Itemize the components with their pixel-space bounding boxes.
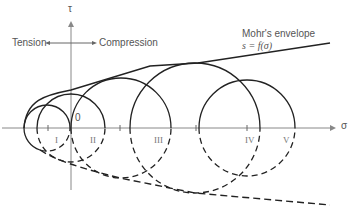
compression-arrow-icon bbox=[92, 41, 97, 45]
origin-label: 0 bbox=[75, 112, 81, 123]
mohr-envelope bbox=[24, 43, 330, 128]
tau-arrow-icon bbox=[68, 21, 74, 27]
circle-label-1: I bbox=[55, 135, 58, 145]
compression-label: Compression bbox=[99, 37, 158, 48]
tau-label: τ bbox=[68, 3, 72, 14]
circle-label-5: V bbox=[283, 135, 290, 145]
sigma-arrow-icon bbox=[330, 125, 336, 131]
tension-label: Tension bbox=[12, 37, 46, 48]
circle-label-2: II bbox=[90, 135, 96, 145]
sigma-label: σ bbox=[341, 120, 347, 131]
circle-label-4: IV bbox=[245, 135, 255, 145]
envelope-equation: s = f(σ) bbox=[242, 40, 272, 51]
mohr-envelope-lower bbox=[40, 150, 330, 205]
envelope-title: Mohr's envelope bbox=[242, 28, 315, 39]
circle-label-3: III bbox=[154, 135, 163, 145]
